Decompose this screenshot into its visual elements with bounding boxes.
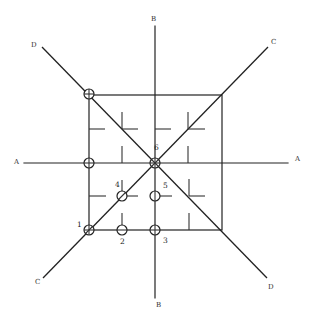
point-label-2: 2 bbox=[120, 237, 125, 246]
point-label-5: 5 bbox=[163, 181, 168, 190]
point-marker-2 bbox=[117, 225, 127, 235]
point-marker-top-left-corner bbox=[84, 89, 94, 99]
axis-label-c-top-right: C bbox=[271, 38, 276, 46]
point-label-4: 4 bbox=[115, 180, 120, 189]
axis-label-a-right: A bbox=[294, 155, 301, 163]
point-marker-4 bbox=[117, 191, 127, 201]
point-label-3: 3 bbox=[163, 236, 168, 245]
point-label-1: 1 bbox=[77, 220, 82, 229]
symmetry-diagram: A A B B C C D D 1 2 3 4 5 6 bbox=[0, 0, 315, 329]
point-label-6: 6 bbox=[154, 143, 159, 152]
axis-label-b-top: B bbox=[151, 15, 156, 23]
point-marker-left-midpoint bbox=[84, 158, 94, 168]
axis-label-c-bottom-left: C bbox=[35, 278, 40, 286]
axis-label-b-bottom: B bbox=[156, 301, 161, 309]
point-marker-3 bbox=[150, 225, 160, 235]
point-marker-1 bbox=[84, 225, 94, 235]
point-marker-5 bbox=[150, 191, 160, 201]
axis-label-a-left: A bbox=[13, 158, 20, 166]
axis-label-d-bottom-right: D bbox=[268, 283, 274, 291]
point-marker-6 bbox=[150, 158, 160, 168]
axis-label-d-top-left: D bbox=[31, 41, 37, 49]
